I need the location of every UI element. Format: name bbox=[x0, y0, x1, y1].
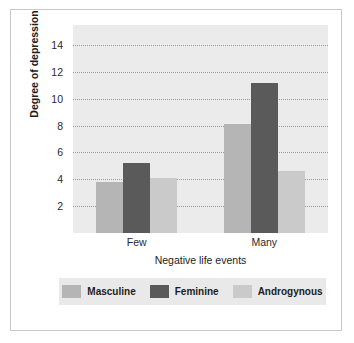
legend-entry: Androgynous bbox=[233, 285, 323, 298]
x-tick-label: Few bbox=[127, 236, 147, 248]
legend-entry: Masculine bbox=[62, 285, 135, 298]
bar bbox=[123, 163, 150, 233]
bar bbox=[278, 171, 305, 233]
gridline bbox=[73, 45, 328, 46]
y-tick-label: 10 bbox=[51, 93, 63, 105]
bar bbox=[150, 178, 177, 233]
y-tick-label: 8 bbox=[57, 120, 63, 132]
y-tick-label: 12 bbox=[51, 66, 63, 78]
plot-area bbox=[73, 25, 328, 233]
legend-label: Androgynous bbox=[258, 286, 323, 297]
y-tick-label: 4 bbox=[57, 173, 63, 185]
chart-figure: 2468101214 Degree of depression FewMany … bbox=[10, 9, 342, 331]
y-tick-label: 14 bbox=[51, 39, 63, 51]
x-tick-label: Many bbox=[251, 236, 277, 248]
bar bbox=[251, 83, 278, 233]
x-axis-title: Negative life events bbox=[73, 254, 328, 266]
legend-swatch bbox=[233, 285, 252, 298]
legend-entry: Feminine bbox=[150, 285, 219, 298]
gridline bbox=[73, 126, 328, 127]
bar bbox=[96, 182, 123, 233]
gridline bbox=[73, 152, 328, 153]
legend-label: Feminine bbox=[175, 286, 219, 297]
gridline bbox=[73, 99, 328, 100]
x-axis-ticks: FewMany bbox=[73, 236, 328, 252]
legend-swatch bbox=[150, 285, 169, 298]
y-axis-title: Degree of depression bbox=[28, 0, 40, 149]
y-tick-label: 6 bbox=[57, 146, 63, 158]
y-tick-label: 2 bbox=[57, 200, 63, 212]
y-axis-ticks: 2468101214 bbox=[11, 25, 69, 233]
legend-swatch bbox=[62, 285, 81, 298]
gridline bbox=[73, 72, 328, 73]
chart-legend: MasculineFeminineAndrogynous bbox=[59, 278, 326, 305]
bar bbox=[224, 124, 251, 233]
legend-label: Masculine bbox=[87, 286, 135, 297]
